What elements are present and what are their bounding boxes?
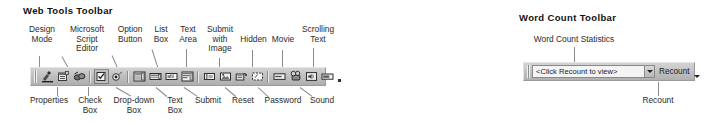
leader-design-mode: [39, 56, 40, 67]
callout-design-mode: Design Mode: [21, 25, 63, 44]
word-count-toolbar-heading: Word Count Toolbar: [519, 12, 616, 23]
callout-check-box: Check Box: [74, 96, 106, 115]
leader-submit-with-image: [219, 58, 220, 67]
hidden-button[interactable]: [250, 69, 265, 84]
toolbar-grip-handle[interactable]: [34, 70, 37, 83]
callout-sound: Sound: [306, 96, 338, 106]
callout-text-box: Text Box: [161, 96, 189, 115]
figure-toolbars-annotated: Web Tools Toolbar Design Mode Microsoft …: [0, 0, 723, 122]
design-mode-button[interactable]: [40, 69, 55, 84]
option-button-button[interactable]: [110, 69, 125, 84]
word-count-toolbar-options-button[interactable]: [694, 63, 700, 80]
text-area-button[interactable]: [180, 69, 195, 84]
callout-drop-down-box: Drop-down Box: [107, 96, 161, 115]
toolbar-separator: [267, 71, 269, 83]
microsoft-script-editor-button[interactable]: [72, 69, 87, 84]
text-box-icon: abl: [165, 70, 178, 83]
drop-down-box-button[interactable]: [132, 69, 147, 84]
design-mode-icon: [41, 70, 54, 83]
toolbar-separator: [127, 71, 129, 83]
callout-movie: Movie: [268, 35, 298, 45]
password-button[interactable]: [272, 69, 287, 84]
leader-word-count-statistics: [574, 47, 575, 62]
movie-icon: [289, 70, 302, 83]
movie-button[interactable]: [288, 69, 303, 84]
callout-submit-with-image: Submit with Image: [201, 25, 239, 54]
list-box-button[interactable]: [148, 69, 163, 84]
text-box-button[interactable]: abl: [164, 69, 179, 84]
sound-icon: [305, 70, 318, 83]
leader-text-area: [186, 49, 187, 67]
callout-reset: Reset: [228, 96, 258, 106]
svg-text:abl: abl: [167, 73, 174, 79]
sound-button[interactable]: [304, 69, 319, 84]
check-box-button[interactable]: [94, 69, 109, 84]
word-count-toolbar[interactable]: <Click Recount to view> Recount: [523, 62, 695, 81]
toolbar-overflow-indicator[interactable]: [338, 79, 341, 82]
leader-scrolling-text: [313, 48, 314, 67]
option-button-icon: [111, 70, 124, 83]
submit-button[interactable]: [202, 69, 217, 84]
callout-scrolling-text: Scrolling Text: [297, 25, 339, 44]
leader-recount: [658, 82, 659, 96]
recount-button[interactable]: Recount: [655, 64, 694, 79]
web-tools-toolbar[interactable]: abl: [30, 67, 326, 86]
script-editor-icon: [73, 70, 86, 83]
callout-recount: Recount: [634, 96, 682, 106]
text-area-icon: [181, 70, 194, 83]
reset-icon: [235, 70, 248, 83]
word-count-statistics-combo[interactable]: <Click Recount to view>: [532, 65, 644, 78]
reset-button[interactable]: [234, 69, 249, 84]
callout-option-button: Option Button: [110, 25, 150, 44]
leader-script-editor: [62, 56, 69, 67]
callout-password: Password: [259, 96, 307, 106]
properties-icon: [57, 70, 70, 83]
properties-button[interactable]: [56, 69, 71, 84]
callout-submit: Submit: [190, 96, 226, 106]
chevron-down-icon: [647, 70, 653, 73]
drop-down-box-icon: [133, 70, 146, 83]
submit-icon: [203, 70, 216, 83]
list-box-icon: [149, 70, 162, 83]
hidden-icon: [251, 70, 264, 83]
scrolling-text-button[interactable]: [320, 69, 335, 84]
chevron-down-icon: [694, 75, 700, 78]
leader-list-box: [152, 49, 159, 67]
callout-word-count-statistics: Word Count Statistics: [522, 35, 626, 45]
check-box-icon: [96, 71, 107, 82]
callout-microsoft-script-editor: Microsoft Script Editor: [62, 25, 112, 54]
word-count-combo-dropdown-arrow[interactable]: [644, 65, 655, 78]
toolbar-separator: [197, 71, 199, 83]
callout-properties: Properties: [25, 96, 73, 106]
callout-list-box: List Box: [148, 25, 174, 44]
leader-hidden: [252, 50, 253, 67]
web-tools-toolbar-heading: Web Tools Toolbar: [23, 5, 113, 16]
leader-movie: [282, 50, 283, 67]
scrolling-text-icon: [321, 70, 334, 83]
word-count-toolbar-grip-handle[interactable]: [527, 65, 530, 78]
callout-text-area: Text Area: [174, 25, 202, 44]
submit-with-image-icon: [219, 70, 232, 83]
toolbar-separator: [89, 71, 91, 83]
password-icon: [273, 70, 286, 83]
callout-hidden: Hidden: [237, 35, 270, 45]
submit-with-image-button[interactable]: [218, 69, 233, 84]
word-count-statistics-value: <Click Recount to view>: [533, 67, 644, 76]
